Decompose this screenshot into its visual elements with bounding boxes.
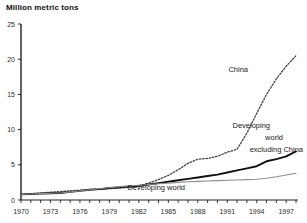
annotation-dw-excl-china-1: Developing <box>232 121 270 130</box>
annotation-dw-excl-china-3: excluding China <box>250 145 304 154</box>
x-tick-label: 1988 <box>190 208 206 215</box>
x-tick-label: 1997 <box>278 208 294 215</box>
line-chart: 0510152025197019731976197919821985198819… <box>0 0 307 223</box>
y-tick-label: 25 <box>7 21 15 28</box>
x-tick-label: 1976 <box>72 208 88 215</box>
x-tick-label: 1994 <box>249 208 265 215</box>
y-tick-label: 15 <box>7 91 15 98</box>
x-tick-label: 1970 <box>13 208 29 215</box>
y-tick-label: 5 <box>11 161 15 168</box>
annotation-china: China <box>228 65 248 74</box>
annotation-developing-world: Developing world <box>127 183 185 192</box>
x-tick-label: 1979 <box>102 208 118 215</box>
x-tick-label: 1985 <box>161 208 177 215</box>
y-tick-label: 0 <box>11 197 15 204</box>
x-tick-label: 1991 <box>219 208 235 215</box>
chart-container: Million metric tons 05101520251970197319… <box>0 0 307 223</box>
y-tick-label: 20 <box>7 56 15 63</box>
x-tick-label: 1982 <box>131 208 147 215</box>
annotation-dw-excl-china-2: world <box>264 133 283 142</box>
x-tick-label: 1973 <box>43 208 59 215</box>
y-tick-label: 10 <box>7 126 15 133</box>
